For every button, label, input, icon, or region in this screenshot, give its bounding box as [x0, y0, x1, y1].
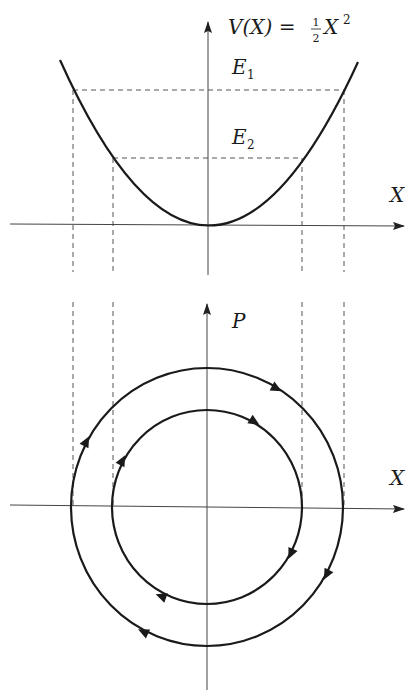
energy-label-e2: E 2 [231, 125, 255, 152]
p-axis-label: P [231, 309, 246, 333]
phase-dashed-lines [73, 302, 344, 505]
energy-label-e1: E 1 [231, 55, 255, 82]
diagram-canvas: V(X) = 1 2 X 2 E 1 E 2 X [0, 0, 420, 691]
svg-text:X: X [322, 15, 339, 39]
arrow-icon [80, 434, 94, 448]
svg-text:1: 1 [247, 68, 255, 82]
svg-text:E: E [231, 125, 247, 149]
potential-curve [60, 60, 358, 226]
svg-text:2: 2 [343, 13, 351, 27]
potential-plot: V(X) = 1 2 X 2 E 1 E 2 X [10, 13, 405, 275]
svg-text:2: 2 [247, 138, 255, 152]
phase-plot: P X [10, 302, 405, 690]
svg-text:1: 1 [313, 16, 320, 29]
potential-formula: V(X) = 1 2 X 2 [228, 13, 351, 45]
arrow-icon [284, 547, 298, 561]
phase-x-axis-label: X [388, 466, 405, 490]
svg-text:2: 2 [313, 32, 320, 45]
arrow-icon [319, 568, 333, 582]
svg-text:E: E [231, 55, 247, 79]
svg-text:V(X) =: V(X) = [228, 15, 295, 39]
x-axis-label: X [388, 183, 405, 207]
